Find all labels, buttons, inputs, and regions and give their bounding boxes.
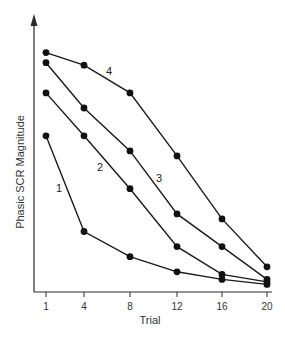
y-axis-arrow-icon: [31, 14, 38, 26]
series-points: [43, 49, 271, 288]
x-tick-label: 8: [127, 301, 133, 312]
data-point: [219, 243, 226, 250]
y-axis-title: Phasic SCR Magnitude: [14, 115, 26, 229]
series-label-2: 2: [97, 161, 103, 173]
data-point: [43, 49, 50, 56]
series-label-4: 4: [106, 65, 112, 77]
data-point: [43, 59, 50, 66]
data-point: [81, 132, 88, 139]
data-point: [43, 132, 50, 139]
data-point: [174, 211, 181, 218]
line-chart: 148121620 Trial Phasic SCR Magnitude 1 2…: [0, 0, 285, 343]
series-line-4: [46, 53, 267, 267]
data-point: [264, 263, 271, 270]
data-point: [81, 228, 88, 235]
series-line-1: [46, 136, 267, 285]
x-tick-label: 16: [216, 301, 228, 312]
x-tick-labels: 148121620: [43, 301, 273, 312]
data-point: [219, 271, 226, 278]
x-axis-title: Trial: [140, 314, 161, 326]
data-point: [81, 62, 88, 69]
data-point: [127, 148, 134, 155]
data-point: [127, 185, 134, 192]
series-lines: [46, 53, 267, 285]
data-point: [219, 216, 226, 223]
data-point: [174, 268, 181, 275]
data-point: [81, 105, 88, 112]
x-tick-label: 4: [81, 301, 87, 312]
series-label-1: 1: [56, 182, 62, 194]
x-ticks: [46, 292, 267, 297]
data-point: [264, 276, 271, 283]
data-point: [174, 243, 181, 250]
data-point: [43, 90, 50, 97]
data-point: [127, 253, 134, 260]
x-tick-label: 1: [43, 301, 49, 312]
series-label-3: 3: [156, 172, 162, 184]
x-tick-label: 20: [261, 301, 273, 312]
data-point: [127, 90, 134, 97]
data-point: [174, 153, 181, 160]
x-tick-label: 12: [171, 301, 183, 312]
